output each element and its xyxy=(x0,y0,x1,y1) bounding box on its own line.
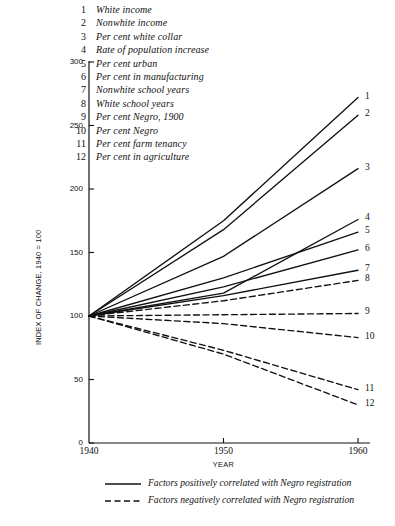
series-end-label: 9 xyxy=(365,306,370,316)
series-line-12 xyxy=(89,316,358,405)
footnote-label: Factors positively correlated with Negro… xyxy=(148,477,351,488)
x-axis-title: YEAR xyxy=(194,460,254,469)
series-end-label: 6 xyxy=(365,243,370,253)
series-line-6 xyxy=(89,250,358,316)
series-end-label: 7 xyxy=(365,263,370,273)
y-axis-tick-label: 200 xyxy=(59,184,83,193)
y-axis-tick-label: 100 xyxy=(59,311,83,320)
plot-area xyxy=(0,0,395,526)
series-line-4 xyxy=(89,219,358,316)
series-end-label: 10 xyxy=(365,331,375,341)
series-line-5 xyxy=(89,232,358,316)
series-end-label: 8 xyxy=(365,273,370,283)
series-end-label: 11 xyxy=(365,383,374,393)
y-axis-tick-label: 150 xyxy=(59,248,83,257)
y-axis-tick-label: 250 xyxy=(59,121,83,130)
series-end-label: 1 xyxy=(365,91,370,101)
series-line-1 xyxy=(89,98,358,316)
y-axis-tick-label: 50 xyxy=(59,375,83,384)
x-axis-tick-label: 1960 xyxy=(338,446,378,456)
series-end-label: 12 xyxy=(365,398,375,408)
footnote-label: Factors negatively correlated with Negro… xyxy=(148,494,354,505)
series-end-label: 2 xyxy=(365,108,370,118)
series-line-9 xyxy=(89,313,358,316)
chart-figure: 1White income2Nonwhite income3Per cent w… xyxy=(0,0,395,526)
series-end-label: 4 xyxy=(365,212,370,222)
y-axis-tick-label: 300 xyxy=(59,57,83,66)
series-end-label: 5 xyxy=(365,225,370,235)
x-axis-tick-label: 1940 xyxy=(69,446,109,456)
x-axis-tick-label: 1950 xyxy=(204,446,244,456)
series-end-label: 3 xyxy=(365,162,370,172)
